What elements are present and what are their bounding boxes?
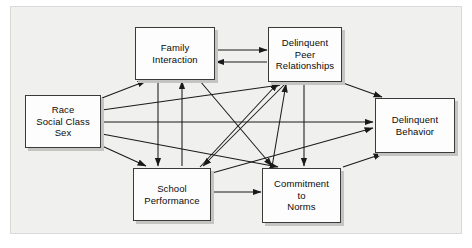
node-commitment-to-norms[interactable]: Commitment to Norms — [262, 168, 341, 223]
diagram-canvas: Family Interaction Delinquent Peer Relat… — [0, 0, 472, 248]
node-label: Delinquent Behavior — [389, 114, 441, 137]
edge-family-to-norms — [200, 81, 272, 166]
node-delinquent-peer-relationships[interactable]: Delinquent Peer Relationships — [268, 27, 342, 82]
node-delinquent-behavior[interactable]: Delinquent Behavior — [375, 98, 455, 153]
node-school-performance[interactable]: School Performance — [133, 168, 211, 221]
node-label: Race Social Class Sex — [33, 104, 92, 139]
edge-school-to-behavior — [212, 128, 373, 173]
edge-race-to-peer — [102, 85, 280, 110]
edge-peer-to-behavior — [343, 83, 382, 97]
edge-race-to-school — [102, 146, 146, 166]
edge-race-to-family — [102, 81, 146, 98]
node-label: Family Interaction — [149, 42, 200, 65]
node-label: Commitment to Norms — [271, 178, 332, 213]
node-label: School Performance — [141, 183, 202, 206]
node-family-interaction[interactable]: Family Interaction — [135, 27, 215, 80]
node-label: Delinquent Peer Relationships — [273, 37, 337, 72]
edge-norms-to-behavior — [343, 154, 382, 167]
edge-peer-to-school — [203, 83, 286, 166]
node-race-social-class-sex[interactable]: Race Social Class Sex — [25, 95, 101, 148]
